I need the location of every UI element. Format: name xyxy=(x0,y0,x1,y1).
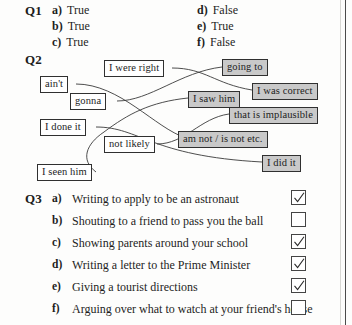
q3-checkbox-f[interactable] xyxy=(291,300,306,315)
q3-row-a-letter: a) xyxy=(52,192,68,204)
q2-node-gonna[interactable]: gonna xyxy=(70,93,106,110)
q1-answer-c-letter: c) xyxy=(52,35,61,49)
q2-node-i-done-it[interactable]: I done it xyxy=(40,119,86,136)
check-icon xyxy=(293,257,306,271)
q2-node-i-did-it[interactable]: I did it xyxy=(262,155,301,172)
q3-checkbox-a[interactable] xyxy=(291,190,306,205)
q3-checkbox-d[interactable] xyxy=(291,256,306,271)
q2-node-i-seen-him[interactable]: I seen him xyxy=(37,164,92,181)
q1-answer-e-letter: e) xyxy=(197,19,206,33)
q3-checkbox-c[interactable] xyxy=(291,234,306,249)
q3-row-d-letter: d) xyxy=(52,258,68,270)
q3-row-a-text: Writing to apply to be an astronaut xyxy=(72,192,239,207)
q3-row-b-letter: b) xyxy=(52,214,68,226)
q3-row-d: d) Writing a letter to the Prime Ministe… xyxy=(52,256,342,277)
q3-row-f: f) Arguing over what to watch at your fr… xyxy=(52,300,342,321)
q1-answer-b-letter: b) xyxy=(52,19,63,33)
q1-answer-c: c)True xyxy=(52,35,89,50)
q1-answer-e: e)True xyxy=(197,19,234,34)
q2-node-aint[interactable]: ain't xyxy=(40,76,68,93)
q3-row-e-letter: e) xyxy=(52,280,68,292)
q3-row-d-text: Writing a letter to the Prime Minister xyxy=(72,258,250,273)
q3-row-f-letter: f) xyxy=(52,302,68,314)
q1-answer-b: b)True xyxy=(52,19,90,34)
q2-node-i-was-correct[interactable]: I was correct xyxy=(252,83,318,100)
q2-node-i-were-right[interactable]: I were right xyxy=(104,60,164,77)
q1-answer-f: f)False xyxy=(197,35,235,50)
q2-node-going-to[interactable]: going to xyxy=(222,59,268,76)
q3-row-b-text: Shouting to a friend to pass you the bal… xyxy=(72,214,263,229)
q1-answer-a: a)True xyxy=(52,3,89,18)
q3-row-e-text: Giving a tourist directions xyxy=(72,280,198,295)
q2-node-not-likely[interactable]: not likely xyxy=(104,136,155,153)
q2-node-i-saw-him[interactable]: I saw him xyxy=(188,91,240,108)
q3-row-c-letter: c) xyxy=(52,236,68,248)
q2-node-that-is-implausible[interactable]: that is implausible xyxy=(229,107,318,124)
q1-answer-e-text: True xyxy=(211,19,233,33)
q2-node-am-not-is-not[interactable]: am not / is not etc. xyxy=(178,131,268,148)
q1-answer-d-letter: d) xyxy=(197,3,208,17)
q1-answer-a-letter: a) xyxy=(52,3,62,17)
q3-row-b: b) Shouting to a friend to pass you the … xyxy=(52,212,342,233)
q1-answer-b-text: True xyxy=(68,19,90,33)
q1-answer-a-text: True xyxy=(67,3,89,17)
question-3-block: Q3 a) Writing to apply to be an astronau… xyxy=(0,190,352,325)
q1-answer-d: d)False xyxy=(197,3,238,18)
check-icon xyxy=(293,191,306,205)
q3-checkbox-e[interactable] xyxy=(291,278,306,293)
q3-row-c: c) Showing parents around your school xyxy=(52,234,342,255)
question-2-block: Q2 I were right ain't gonna I done it no… xyxy=(0,52,352,182)
q3-checkbox-b[interactable] xyxy=(291,212,306,227)
q3-row-f-text: Arguing over what to watch at your frien… xyxy=(72,302,313,317)
q1-answer-c-text: True xyxy=(66,35,88,49)
question-1-label: Q1 xyxy=(25,3,42,19)
q1-answer-d-text: False xyxy=(213,3,238,17)
q3-row-a: a) Writing to apply to be an astronaut xyxy=(52,190,342,211)
answer-key-page: Q1 a)True b)True c)True d)False e)True f… xyxy=(0,0,352,325)
check-icon xyxy=(293,235,306,249)
q1-answer-f-letter: f) xyxy=(197,35,205,49)
q3-row-e: e) Giving a tourist directions xyxy=(52,278,342,299)
question-1-block: Q1 a)True b)True c)True d)False e)True f… xyxy=(0,0,352,52)
q3-row-c-text: Showing parents around your school xyxy=(72,236,248,251)
q1-answer-f-text: False xyxy=(210,35,235,49)
check-icon xyxy=(293,279,306,293)
question-3-label: Q3 xyxy=(25,191,42,207)
